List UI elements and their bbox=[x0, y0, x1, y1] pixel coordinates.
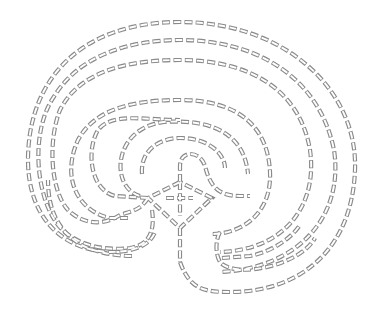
labyrinth-walls bbox=[28, 22, 355, 292]
labyrinth-diagram bbox=[0, 0, 379, 323]
